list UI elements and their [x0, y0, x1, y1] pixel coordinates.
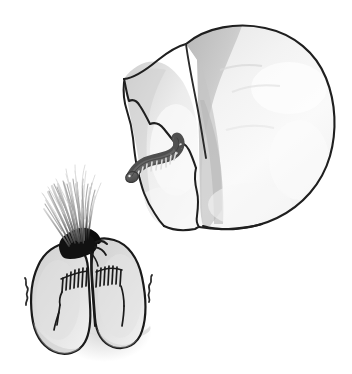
illustration-svg — [0, 0, 352, 374]
apple-highlight-upper — [251, 62, 327, 114]
illustration-canvas: Hand-drawn grayscale illustration A bitt… — [0, 0, 352, 374]
lung-left-highlight — [36, 260, 80, 340]
worm-eye — [128, 175, 130, 177]
